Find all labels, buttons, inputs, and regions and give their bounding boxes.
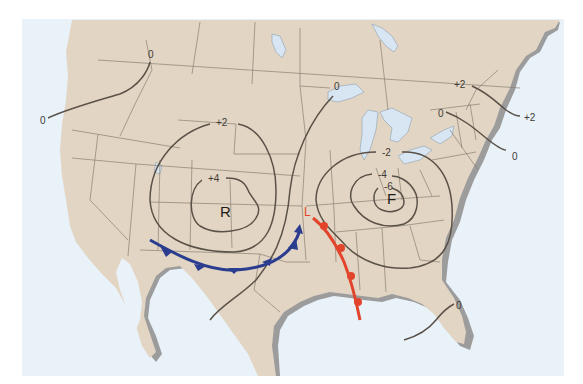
- label-ne-zero-a: 0: [438, 108, 444, 119]
- label-f-minus2: -2: [382, 147, 391, 158]
- pressure-center-r: R: [220, 203, 231, 220]
- label-mid-zero: 0: [334, 81, 340, 92]
- label-r-plus4: +4: [208, 173, 220, 184]
- label-f-minus6: -6: [384, 181, 393, 192]
- label-west-zero-b: 0: [148, 49, 154, 60]
- label-west-zero-a: 0: [40, 115, 46, 126]
- label-fl-zero: 0: [456, 300, 462, 311]
- low-pressure-marker: L: [304, 205, 311, 219]
- label-ne-plus2-a: +2: [454, 79, 466, 90]
- label-ne-plus2-b: +2: [524, 112, 536, 123]
- pressure-center-f: F: [387, 190, 396, 207]
- label-r-plus2: +2: [216, 117, 228, 128]
- label-f-minus4: -4: [378, 169, 387, 180]
- weather-map: L R F 0 0 +2 +4 0 -2 -4 -6 +2 +2 0 0 0: [0, 0, 583, 384]
- label-ne-zero-b: 0: [512, 151, 518, 162]
